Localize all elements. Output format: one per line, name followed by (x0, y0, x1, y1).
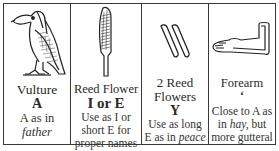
glyph-letter: I or E (87, 96, 124, 111)
glyph-description: Close to A as in hay, but more gutteral (211, 105, 273, 144)
vulture-hieroglyph-icon (4, 4, 70, 80)
glyph-name: 2 Reed Flowers (154, 76, 196, 104)
panel-reed-flower: Reed Flower I or E Use as I or short E f… (71, 4, 142, 144)
glyph-name: Reed Flower (74, 82, 138, 96)
glyph-description: Use as long E as in peace (144, 118, 205, 144)
glyph-description: A as in father (20, 111, 55, 139)
glyph-name: Forearm (221, 76, 263, 90)
forearm-hieroglyph-icon (209, 4, 275, 68)
panel-forearm: Forearm ʻ Close to A as in hay, but more… (209, 4, 275, 144)
two-reed-flowers-hieroglyph-icon (142, 4, 208, 72)
glyph-letter: A (32, 97, 42, 111)
hieroglyph-alphabet-chart: Vulture A A as in father Reed Flower I o… (3, 3, 276, 145)
glyph-description: Use as I or short E for proper names (75, 111, 137, 150)
glyph-letter: Y (170, 104, 180, 118)
panel-two-reed-flowers: 2 Reed Flowers Y Use as long E as in pea… (142, 4, 209, 144)
panel-vulture: Vulture A A as in father (4, 4, 71, 144)
reed-flower-hieroglyph-icon (71, 4, 141, 78)
glyph-name: Vulture (17, 83, 57, 97)
glyph-letter: ʻ (240, 90, 244, 102)
